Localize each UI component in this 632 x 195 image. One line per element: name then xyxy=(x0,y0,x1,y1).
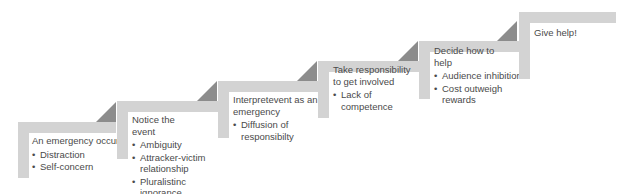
arrow-up-triangle-icon xyxy=(297,61,317,81)
step-6-stem xyxy=(519,12,530,79)
step-3-stem xyxy=(218,81,229,138)
step-1-bar xyxy=(18,122,116,133)
step-3-bar xyxy=(218,81,318,92)
step-title: Decide how to help xyxy=(434,45,498,68)
barrier-item: Ambiguity xyxy=(132,139,228,151)
step-2-text: Notice the event Ambiguity Attracker-vic… xyxy=(132,114,228,194)
step-1-text: An emergency occurs! Distraction Self-co… xyxy=(32,135,128,174)
step-2-stem xyxy=(117,101,128,159)
step-6-bar xyxy=(519,12,616,23)
step-title: Give help! xyxy=(534,27,630,39)
step-6-text: Give help! xyxy=(534,27,630,41)
step-2-bar xyxy=(117,101,218,112)
step-1-stem xyxy=(18,122,29,178)
step-4-text: Take responsibility to get involved Lack… xyxy=(333,64,429,113)
step-3-text: Interpretevent as an emergency Diffusion… xyxy=(233,94,329,143)
barrier-item: Attracker-victim relationship xyxy=(132,152,220,175)
step-title: Notice the event xyxy=(132,114,192,137)
arrow-up-triangle-icon xyxy=(197,81,217,101)
step-5-text: Decide how to help Audience inhibition C… xyxy=(434,45,530,107)
step-title: Take responsibility to get involved xyxy=(333,64,415,87)
arrow-up-triangle-icon xyxy=(497,21,517,41)
step-title: An emergency occurs! xyxy=(32,135,128,147)
barrier-item: Diffusion of responsibilty xyxy=(233,119,307,142)
barrier-item: Self-concern xyxy=(32,161,128,173)
barrier-item: Lack of competence xyxy=(333,89,401,112)
step-5-stem xyxy=(419,41,430,99)
arrow-up-triangle-icon xyxy=(398,41,418,61)
barrier-item: Pluralistinc ignorance xyxy=(132,176,200,195)
barrier-item: Cost outweigh rewards xyxy=(434,83,508,106)
barrier-item: Distraction xyxy=(32,149,128,161)
arrow-up-triangle-icon xyxy=(96,102,116,122)
step-title: Interpretevent as an emergency xyxy=(233,94,318,117)
step-4-stem xyxy=(318,61,329,118)
